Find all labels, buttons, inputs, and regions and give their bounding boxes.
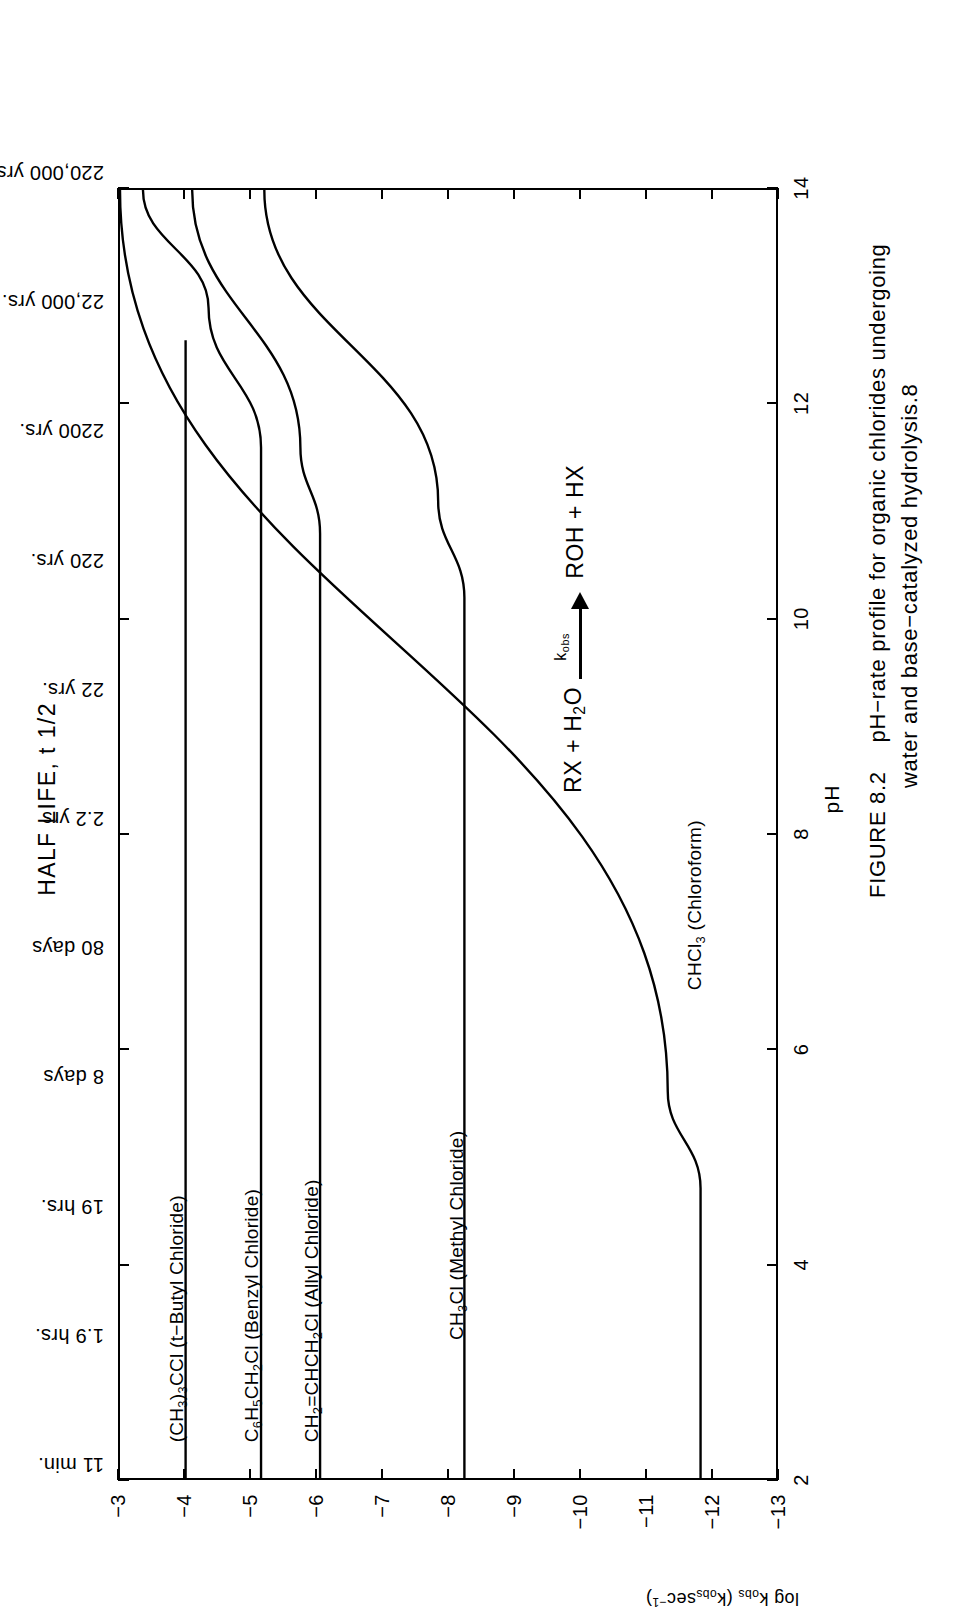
x-tick-4 [767,618,778,620]
y-tick-right-3 [315,188,317,199]
curve-label-t-butyl-chloride: (CH3)3CCl (t−Butyl Chloride) [166,1195,190,1442]
y-tick-label-4: −7 [371,1494,394,1518]
halflife-label-10: 220,000 yrs. [0,161,104,184]
x-tick-label-2: 6 [790,1044,813,1056]
x-tick-3 [767,833,778,835]
x-tick-label-6: 14 [790,176,813,199]
x-tick-1 [767,1264,778,1266]
x-tick-top-6 [118,187,129,189]
reaction-arrow-icon: kobs [560,587,590,679]
y-tick-9 [711,1469,713,1480]
y-tick-7 [579,1469,581,1480]
y-tick-right-7 [579,188,581,199]
halflife-label-3: 8 days [43,1065,104,1088]
halflife-label-8: 2200 yrs. [19,419,104,442]
y-tick-label-7: −10 [569,1494,592,1529]
x-tick-top-3 [118,833,129,835]
y-tick-8 [645,1469,647,1480]
caption-line2: water and base−catalyzed hydrolysis.8 [894,138,926,788]
halflife-label-5: 2.2 yrs [42,807,104,830]
caption-line1: pH−rate profile for organic chlorides un… [865,243,890,742]
reaction-annotation: RX + H2O kobs ROH + HX [560,465,590,793]
curve-label-chloroform: CHCl3 (Chloroform) [684,820,708,990]
y-tick-label-6: −9 [503,1494,526,1518]
x-tick-5 [767,402,778,404]
y-tick-3 [315,1469,317,1480]
x-tick-top-5 [118,402,129,404]
arrow-head [571,592,589,609]
y-tick-right-8 [645,188,647,199]
y-tick-right-10 [777,188,779,199]
caption-id: FIGURE 8.2 [865,771,890,898]
halflife-label-0: 11 min. [38,1453,104,1476]
curve-4 [120,190,701,1478]
y-tick-right-4 [381,188,383,199]
y-tick-right-2 [249,188,251,199]
y-tick-right-9 [711,188,713,199]
x-tick-label-1: 4 [790,1259,813,1271]
y-tick-right-6 [513,188,515,199]
y-tick-10 [777,1469,779,1480]
y-axis-label-text: log kobs (kobssec−1) [646,1589,799,1609]
y-tick-label-8: −11 [635,1494,658,1528]
figure-caption: FIGURE 8.2 pH−rate profile for organic c… [862,138,926,898]
y-tick-2 [249,1469,251,1480]
x-tick-top-2 [118,1048,129,1050]
x-axis-label: pH [820,785,844,814]
y-tick-label-0: −3 [107,1494,130,1518]
x-tick-label-4: 10 [790,607,813,630]
x-tick-2 [767,1048,778,1050]
y-tick-4 [381,1469,383,1480]
y-tick-5 [447,1469,449,1480]
arrow-line [579,603,582,679]
curve-3 [264,190,464,1478]
curve-label-benzyl-chloride: C6H5CH2Cl (Benzyl Chloride) [241,1189,265,1443]
curve-label-methyl-chloride: CH3Cl (Methyl Chloride) [446,1131,470,1340]
halflife-label-1: 1.9 hrs. [35,1324,104,1347]
reaction-reactants: RX + H2O [560,687,589,793]
halflife-label-4: 80 days [32,936,104,959]
y-axis-label: log kobs (kobssec−1) [0,1587,799,1609]
reaction-rate-constant-label: kobs [552,633,571,661]
y-tick-right-1 [183,188,185,199]
y-tick-6 [513,1469,515,1480]
reaction-products: ROH + HX [562,465,589,579]
y-tick-label-5: −8 [437,1494,460,1518]
curve-label-allyl-chloride: CH2=CHCH2Cl (Allyl Chloride) [301,1179,325,1442]
y-tick-label-2: −5 [239,1494,262,1518]
y-tick-right-5 [447,188,449,199]
top-axis-title: HALF LIFE, t 1/2 [34,702,61,896]
y-tick-label-1: −4 [173,1494,196,1518]
x-tick-label-0: 2 [790,1474,813,1486]
x-tick-top-4 [118,618,129,620]
y-tick-1 [183,1469,185,1480]
y-tick-right-0 [117,188,119,199]
y-tick-label-10: −13 [767,1494,790,1529]
halflife-label-6: 22 yrs. [42,678,104,701]
x-tick-top-1 [118,1264,129,1266]
x-tick-label-3: 8 [790,828,813,840]
y-tick-label-9: −12 [701,1494,724,1529]
halflife-label-9: 22,000 yrs. [2,290,104,313]
halflife-label-7: 220 yrs. [30,549,104,572]
halflife-label-2: 19 hrs. [41,1195,104,1218]
x-tick-top-0 [118,1479,129,1481]
x-tick-label-5: 12 [790,392,813,415]
y-tick-label-3: −6 [305,1494,328,1518]
y-tick-0 [117,1469,119,1480]
